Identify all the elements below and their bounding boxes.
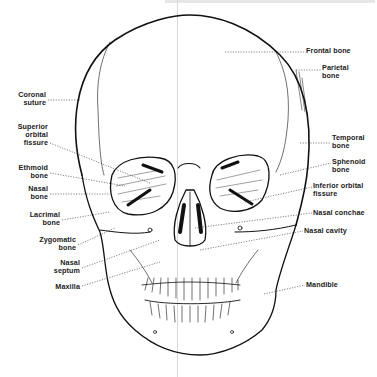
label-superior-orbital-fissure: Superiororbitalfissure (4, 123, 48, 147)
label-mandible: Mandible (306, 281, 338, 289)
leader-mandible (264, 285, 305, 294)
label-ethmoid-bone: Ethmoidbone (4, 164, 48, 180)
leader-ethmoid-bone (50, 173, 125, 186)
leader-sphenoid-bone (280, 163, 331, 175)
label-parietal-bone: Parietalbone (322, 64, 349, 80)
leader-nasal-cavity (200, 231, 303, 250)
label-inferior-orbital-fissure: Inferior orbitalfissure (313, 182, 363, 198)
leader-zygomatic-bone (78, 228, 115, 245)
leader-maxilla (82, 262, 160, 286)
label-zygomatic-bone: Zygomaticbone (4, 236, 76, 252)
label-nasal-septum: Nasalseptum (4, 259, 80, 275)
label-nasal-conchae: Nasal conchae (313, 209, 365, 217)
leader-lacrimal-bone (62, 212, 110, 220)
label-nasal-bone: Nasalbone (4, 185, 48, 201)
label-temporal-bone: Temporalbone (332, 134, 365, 150)
label-nasal-cavity: Nasal cavity (304, 227, 347, 235)
label-coronal-suture: Coronalsuture (4, 91, 46, 107)
leader-nasal-septum (82, 240, 160, 268)
label-sphenoid-bone: Sphenoidbone (332, 158, 366, 174)
label-frontal-bone: Frontal bone (306, 47, 351, 55)
label-lacrimal-bone: Lacrimalbone (4, 211, 60, 227)
label-maxilla: Maxilla (4, 283, 80, 291)
leader-lines (48, 52, 331, 294)
skull-diagram: Frontal boneParietalboneCoronalsutureSup… (0, 0, 377, 377)
